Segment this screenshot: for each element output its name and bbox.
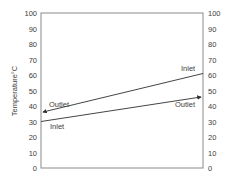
label-lower-outlet: Outlet <box>175 100 196 109</box>
tick-left-90: 90 <box>29 25 37 34</box>
y-axis-label: Temperature°C <box>10 65 19 116</box>
tick-right-50: 50 <box>208 87 216 96</box>
tick-right-70: 70 <box>208 56 216 65</box>
tick-left-60: 60 <box>29 71 37 80</box>
tick-right-40: 40 <box>208 102 216 111</box>
tick-left-100: 100 <box>24 9 37 18</box>
tick-left-0: 0 <box>33 164 37 173</box>
left-y-axis-ticks: 0 10 20 30 40 50 60 70 80 90 100 <box>24 9 37 173</box>
tick-left-20: 20 <box>29 133 37 142</box>
tick-right-20: 20 <box>208 133 216 142</box>
label-upper-inlet: Inlet <box>181 64 196 73</box>
label-upper-outlet: Outlet <box>49 100 70 109</box>
tick-right-80: 80 <box>208 40 216 49</box>
tick-left-10: 10 <box>29 149 37 158</box>
tick-right-0: 0 <box>208 164 212 173</box>
tick-right-100: 100 <box>208 9 221 18</box>
tick-left-70: 70 <box>29 56 37 65</box>
tick-left-40: 40 <box>29 102 37 111</box>
tick-left-50: 50 <box>29 87 37 96</box>
label-lower-inlet: Inlet <box>50 122 65 131</box>
tick-right-60: 60 <box>208 71 216 80</box>
plot-frame <box>41 13 203 168</box>
tick-left-80: 80 <box>29 40 37 49</box>
tick-right-10: 10 <box>208 149 216 158</box>
chart: 0 10 20 30 40 50 60 70 80 90 100 0 10 20… <box>0 0 230 178</box>
right-y-axis-ticks: 0 10 20 30 40 50 60 70 80 90 100 <box>208 9 221 173</box>
tick-right-30: 30 <box>208 118 216 127</box>
tick-right-90: 90 <box>208 25 216 34</box>
tick-left-30: 30 <box>29 118 37 127</box>
